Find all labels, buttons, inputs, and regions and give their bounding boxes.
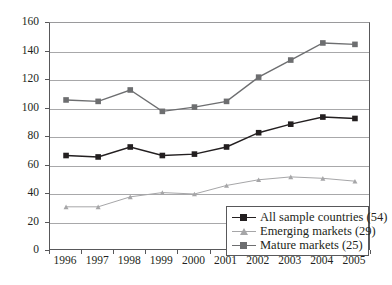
legend-marker-icon: [232, 211, 256, 223]
legend-marker-icon: [232, 225, 256, 237]
y-axis-tick-label: 120: [5, 73, 39, 85]
y-axis-tick-label: 40: [5, 187, 39, 199]
data-point-marker: [256, 74, 262, 80]
x-axis-tick-mark: [81, 250, 82, 254]
series-line: [66, 177, 355, 207]
y-axis-tick-label: 60: [5, 159, 39, 171]
data-point-marker: [160, 153, 166, 159]
x-axis-tick-label: 2005: [334, 255, 374, 267]
line-chart: 020406080100120140160 199619971998199920…: [0, 0, 392, 285]
series-1: [63, 114, 358, 160]
data-point-marker: [192, 104, 198, 110]
y-axis-tick-label: 80: [5, 130, 39, 142]
data-point-marker: [288, 57, 294, 63]
x-axis-tick-mark: [177, 250, 178, 254]
chart-legend: All sample countries (54)Emerging market…: [226, 206, 369, 256]
legend-item: Emerging markets (29): [232, 224, 364, 238]
x-axis-tick-mark: [210, 250, 211, 254]
legend-item: Mature markets (25): [232, 238, 364, 252]
x-axis-tick-mark: [49, 250, 50, 254]
legend-item-label: All sample countries (54): [260, 211, 387, 224]
legend-item: All sample countries (54): [232, 210, 364, 224]
data-point-marker: [256, 130, 262, 136]
x-axis-tick-mark: [113, 250, 114, 254]
data-point-marker: [95, 154, 101, 160]
data-point-marker: [63, 97, 69, 103]
y-axis-tick-label: 0: [5, 244, 39, 256]
data-point-marker: [192, 151, 198, 157]
legend-marker-icon: [232, 239, 256, 251]
data-point-marker: [127, 144, 133, 150]
data-point-marker: [224, 99, 230, 105]
y-axis-tick-label: 20: [5, 216, 39, 228]
series-2: [64, 175, 358, 210]
data-point-marker: [160, 109, 166, 115]
legend-symbol: [240, 228, 248, 235]
y-axis-tick-label: 160: [5, 16, 39, 28]
legend-item-label: Mature markets (25): [260, 239, 363, 252]
series-line: [66, 117, 355, 157]
legend-symbol: [240, 242, 247, 249]
y-axis-tick-label: 140: [5, 45, 39, 57]
series-line: [66, 43, 355, 111]
series-3: [63, 40, 358, 114]
legend-symbol: [240, 214, 247, 221]
legend-item-label: Emerging markets (29): [260, 225, 376, 238]
data-point-marker: [320, 40, 326, 46]
data-point-marker: [63, 153, 69, 159]
data-point-marker: [288, 121, 294, 127]
data-point-marker: [352, 42, 358, 48]
data-point-marker: [320, 114, 326, 120]
data-point-marker: [224, 144, 230, 150]
data-point-marker: [127, 87, 133, 93]
data-point-marker: [95, 99, 101, 105]
data-point-marker: [352, 116, 358, 122]
x-axis-tick-mark: [145, 250, 146, 254]
y-axis-tick-label: 100: [5, 102, 39, 114]
x-axis-tick-mark: [370, 250, 371, 254]
